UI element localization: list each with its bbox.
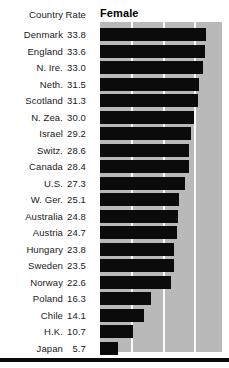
- row-country-label: Hungary: [0, 244, 63, 255]
- row-rate-value: 27.3: [63, 178, 86, 189]
- table-row: U.S.27.3: [0, 175, 229, 193]
- chart-root: Country Rate Female Denmark33.8England33…: [0, 0, 229, 368]
- row-rate-value: 23.8: [63, 244, 86, 255]
- row-rate-value: 23.5: [63, 260, 86, 271]
- row-rate-value: 33.0: [63, 62, 86, 73]
- table-row: H.K.10.7: [0, 323, 229, 341]
- row-country-label: Scotland: [0, 95, 63, 106]
- row-country-label: Austria: [0, 227, 63, 238]
- table-row: Japan5.7: [0, 340, 229, 358]
- column-header-country: Country: [0, 9, 63, 20]
- row-bar: [100, 259, 174, 272]
- row-rate-value: 31.5: [63, 79, 86, 90]
- row-bar: [100, 45, 205, 58]
- row-rate-value: 33.6: [63, 46, 86, 57]
- row-bar: [100, 193, 179, 206]
- table-row: Austria24.7: [0, 224, 229, 242]
- row-rate-value: 33.8: [63, 29, 86, 40]
- row-country-label: Sweden: [0, 260, 63, 271]
- table-row: Scotland31.3: [0, 92, 229, 110]
- row-rate-value: 14.1: [63, 310, 86, 321]
- row-bar: [100, 309, 144, 322]
- bottom-rule: [0, 358, 229, 362]
- row-country-label: Switz.: [0, 145, 63, 156]
- row-bar: [100, 111, 194, 124]
- row-bar: [100, 342, 118, 355]
- row-country-label: Israel: [0, 128, 63, 139]
- row-rate-value: 25.1: [63, 194, 86, 205]
- row-country-label: N. Zea.: [0, 112, 63, 123]
- row-country-label: Australia: [0, 211, 63, 222]
- row-country-label: U.S.: [0, 178, 63, 189]
- row-rate-value: 31.3: [63, 95, 86, 106]
- row-rate-value: 10.7: [63, 326, 86, 337]
- row-country-label: H.K.: [0, 326, 63, 337]
- row-rate-value: 28.4: [63, 161, 86, 172]
- row-bar: [100, 160, 189, 173]
- table-row: Sweden23.5: [0, 257, 229, 275]
- row-country-label: Neth.: [0, 79, 63, 90]
- table-row: N. Ire.33.0: [0, 59, 229, 77]
- row-rate-value: 16.3: [63, 293, 86, 304]
- row-bar: [100, 127, 191, 140]
- row-country-label: England: [0, 46, 63, 57]
- table-row: W. Ger.25.1: [0, 191, 229, 209]
- table-row: England33.6: [0, 43, 229, 61]
- row-bar: [100, 325, 133, 338]
- row-bar: [100, 243, 174, 256]
- row-rate-value: 28.6: [63, 145, 86, 156]
- row-rate-value: 22.6: [63, 277, 86, 288]
- row-bar: [100, 177, 185, 190]
- column-header-rate: Rate: [63, 9, 86, 20]
- row-bar: [100, 144, 189, 157]
- table-row: Norway22.6: [0, 274, 229, 292]
- row-rate-value: 5.7: [63, 343, 86, 354]
- row-country-label: Norway: [0, 277, 63, 288]
- row-country-label: Poland: [0, 293, 63, 304]
- chart-title-female: Female: [100, 7, 139, 19]
- table-row: Hungary23.8: [0, 241, 229, 259]
- row-bar: [100, 276, 171, 289]
- table-row: Chile14.1: [0, 307, 229, 325]
- table-row: Switz.28.6: [0, 142, 229, 160]
- row-country-label: W. Ger.: [0, 194, 63, 205]
- row-rate-value: 24.8: [63, 211, 86, 222]
- table-row: Neth.31.5: [0, 76, 229, 94]
- row-bar: [100, 78, 199, 91]
- row-bar: [100, 292, 151, 305]
- row-country-label: Canada: [0, 161, 63, 172]
- table-row: Canada28.4: [0, 158, 229, 176]
- table-row: N. Zea.30.0: [0, 109, 229, 127]
- row-country-label: Denmark: [0, 29, 63, 40]
- row-rate-value: 24.7: [63, 227, 86, 238]
- row-bar: [100, 61, 203, 74]
- row-rate-value: 29.2: [63, 128, 86, 139]
- table-row: Poland16.3: [0, 290, 229, 308]
- row-bar: [100, 94, 198, 107]
- table-row: Israel29.2: [0, 125, 229, 143]
- row-bar: [100, 210, 178, 223]
- row-rate-value: 30.0: [63, 112, 86, 123]
- table-row: Australia24.8: [0, 208, 229, 226]
- row-country-label: Japan: [0, 343, 63, 354]
- row-bar: [100, 28, 206, 41]
- table-row: Denmark33.8: [0, 26, 229, 44]
- row-bar: [100, 226, 177, 239]
- row-country-label: Chile: [0, 310, 63, 321]
- row-country-label: N. Ire.: [0, 62, 63, 73]
